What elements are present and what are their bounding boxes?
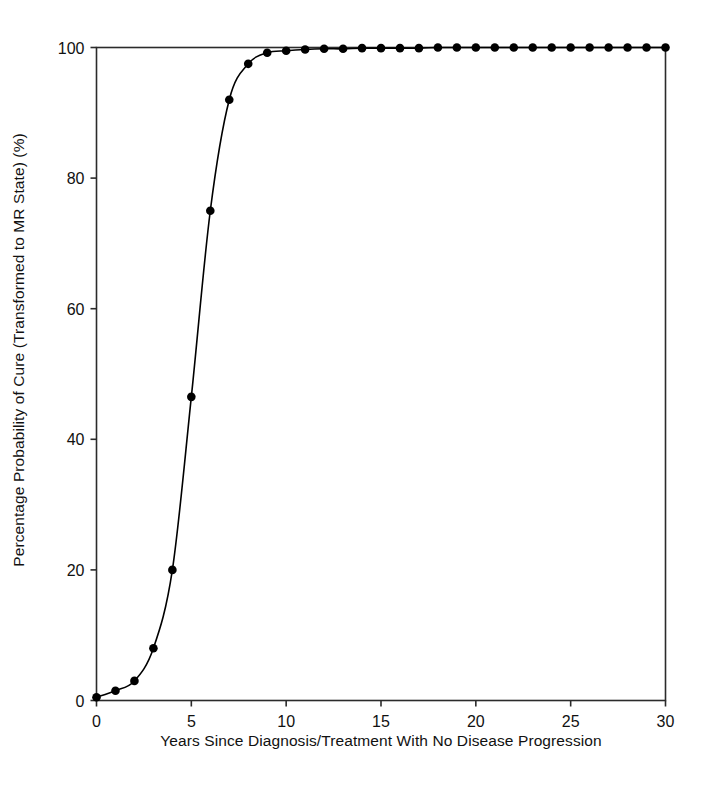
x-axis-title: Years Since Diagnosis/Treatment With No …: [96, 732, 666, 750]
plot-frame: [97, 48, 666, 701]
x-tick-label: 0: [92, 713, 101, 730]
data-point-marker: 30 yr, 100%: [661, 43, 670, 52]
data-point-marker: 4 yr, 20%: [168, 566, 177, 575]
data-point-marker: 7 yr, 92%: [225, 95, 234, 104]
data-point-marker: 13 yr, 99.8%: [339, 45, 348, 54]
chart-figure: Percentage Probability of Cure (Transfor…: [0, 0, 715, 788]
tick-labels-group: 051015202530020406080100: [58, 40, 675, 730]
x-tick-label: 5: [187, 713, 196, 730]
chart-plot-area: 051015202530020406080100 0 yr, 0.5%1 yr,…: [0, 0, 715, 788]
data-point-marker: 23 yr, 100%: [528, 43, 537, 52]
data-point-marker: 2 yr, 3%: [130, 677, 139, 686]
data-point-marker: 1 yr, 1.5%: [111, 686, 120, 695]
data-point-marker: 20 yr, 100%: [472, 43, 481, 52]
data-point-marker: 3 yr, 8%: [149, 644, 158, 653]
x-tick-label: 10: [277, 713, 295, 730]
data-point-marker: 11 yr, 99.7%: [301, 45, 310, 54]
data-point-marker: 14 yr, 99.9%: [358, 44, 367, 53]
y-tick-label: 60: [67, 301, 85, 318]
data-point-marker: 6 yr, 75%: [206, 206, 215, 215]
data-point-marker: 27 yr, 100%: [604, 43, 613, 52]
x-tick-label: 20: [467, 713, 485, 730]
y-tick-label: 0: [76, 693, 85, 710]
data-point-marker: 18 yr, 100%: [434, 43, 443, 52]
data-point-marker: 26 yr, 100%: [585, 43, 594, 52]
y-tick-label: 80: [67, 170, 85, 187]
x-tick-label: 30: [657, 713, 675, 730]
x-tick-label: 25: [562, 713, 580, 730]
tick-marks-group: [91, 48, 666, 707]
data-markers-group: 0 yr, 0.5%1 yr, 1.5%2 yr, 3%3 yr, 8%4 yr…: [92, 43, 670, 701]
data-curve: [97, 47, 666, 697]
data-point-marker: 28 yr, 100%: [623, 43, 632, 52]
data-point-marker: 8 yr, 97.5%: [244, 60, 253, 69]
data-point-marker: 17 yr, 99.9%: [415, 44, 424, 53]
data-point-marker: 10 yr, 99.5%: [282, 46, 291, 55]
data-point-marker: 19 yr, 100%: [453, 43, 462, 52]
data-point-marker: 5 yr, 46.5%: [187, 393, 196, 402]
data-point-marker: 22 yr, 100%: [509, 43, 518, 52]
y-tick-label: 20: [67, 562, 85, 579]
y-tick-label: 40: [67, 431, 85, 448]
data-point-marker: 12 yr, 99.8%: [320, 45, 329, 54]
y-tick-label: 100: [58, 40, 85, 57]
x-tick-label: 15: [372, 713, 390, 730]
data-point-marker: 15 yr, 99.9%: [377, 44, 386, 53]
data-point-marker: 21 yr, 100%: [491, 43, 500, 52]
data-point-marker: 0 yr, 0.5%: [92, 693, 101, 702]
data-point-marker: 9 yr, 99.2%: [263, 48, 272, 57]
data-point-marker: 29 yr, 100%: [642, 43, 651, 52]
data-point-marker: 16 yr, 99.9%: [396, 44, 405, 53]
data-point-marker: 24 yr, 100%: [547, 43, 556, 52]
data-point-marker: 25 yr, 100%: [566, 43, 575, 52]
axes-group: [97, 48, 666, 701]
